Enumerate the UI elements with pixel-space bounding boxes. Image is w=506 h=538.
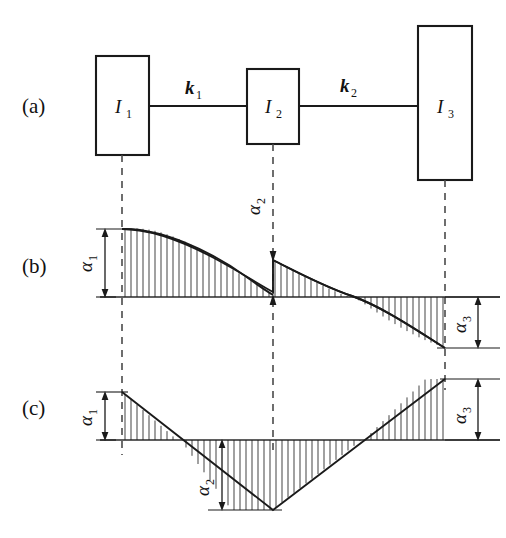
panel-c-label: (c) <box>22 396 45 420</box>
torsional-mode-shape-figure: (a) I 1 I 2 I 3 k 1 k 2 (b) <box>0 0 506 538</box>
rotor-label-i2-subscript: 2 <box>276 107 282 121</box>
panel-b-alpha2-subscript: 2 <box>254 198 268 204</box>
panel-b-alpha2-label: α <box>243 204 264 215</box>
rotor-box-i3[interactable] <box>418 26 472 180</box>
rotor-box-i2[interactable] <box>247 69 299 144</box>
panel-c-alpha2-subscript: 2 <box>203 479 217 485</box>
panel-c-alpha3-label: α <box>449 413 470 424</box>
rotor-label-i3-subscript: 3 <box>448 107 454 121</box>
panel-b-alpha1-subscript: 1 <box>86 255 100 261</box>
rotor-box-i1[interactable] <box>96 56 149 155</box>
panel-c-alpha2-label: α <box>192 485 213 496</box>
panel-a-label: (a) <box>22 94 45 118</box>
panel-c-alpha1-label: α <box>75 415 96 426</box>
panel-b-alpha3-subscript: 3 <box>460 316 474 322</box>
panel-b-alpha1-label: α <box>75 261 96 272</box>
shaft-label-k2: k <box>340 75 350 96</box>
rotor-label-i1-subscript: 1 <box>126 107 132 121</box>
panel-b-label: (b) <box>22 254 47 278</box>
panel-b-alpha3-label: α <box>449 322 470 333</box>
shaft-label-k1-subscript: 1 <box>196 88 202 102</box>
panel-c-alpha1-subscript: 1 <box>86 409 100 415</box>
shaft-label-k1: k <box>185 77 195 98</box>
panel-c-alpha3-subscript: 3 <box>460 407 474 413</box>
shaft-label-k2-subscript: 2 <box>351 86 357 100</box>
